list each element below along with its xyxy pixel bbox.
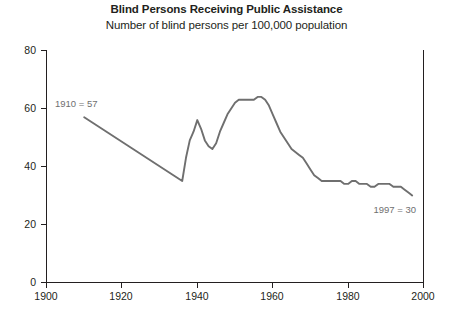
x-axis-tick-labels: 1900 1920 1940 1960 1980 2000 xyxy=(34,290,435,302)
annotation-end-label: 1997 = 30 xyxy=(373,204,416,215)
x-tick-label-1920: 1920 xyxy=(109,290,133,302)
y-tick-label-60: 60 xyxy=(24,102,36,114)
y-tick-label-20: 20 xyxy=(24,218,36,230)
y-tick-label-40: 40 xyxy=(24,160,36,172)
x-tick-label-1980: 1980 xyxy=(336,290,360,302)
annotation-start-label: 1910 = 57 xyxy=(55,98,98,109)
y-tick-label-80: 80 xyxy=(24,44,36,56)
data-series-line xyxy=(84,97,412,196)
x-tick-label-1900: 1900 xyxy=(34,290,58,302)
y-tick-label-0: 0 xyxy=(30,276,36,288)
x-tick-label-2000: 2000 xyxy=(411,290,435,302)
axis-lines xyxy=(46,50,424,283)
x-tick-label-1940: 1940 xyxy=(185,290,209,302)
y-axis-ticks xyxy=(41,51,46,283)
chart-plot-area: 80 60 40 20 0 1900 1920 1940 1960 1980 2… xyxy=(0,0,453,315)
y-axis-tick-labels: 80 60 40 20 0 xyxy=(24,44,36,288)
x-tick-label-1960: 1960 xyxy=(260,290,284,302)
chart-figure: Blind Persons Receiving Public Assistanc… xyxy=(0,0,453,315)
